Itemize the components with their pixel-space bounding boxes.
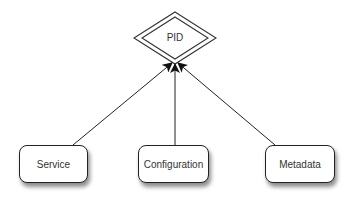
node-metadata-label: Metadata xyxy=(279,159,321,170)
node-service-label: Service xyxy=(37,159,70,170)
pid-label: PID xyxy=(155,32,195,43)
node-configuration[interactable]: Configuration xyxy=(138,145,209,183)
node-metadata[interactable]: Metadata xyxy=(265,145,335,183)
node-service[interactable]: Service xyxy=(19,145,88,183)
node-configuration-label: Configuration xyxy=(144,159,203,170)
edge-service-to-pid xyxy=(73,63,172,145)
edge-metadata-to-pid xyxy=(178,63,275,145)
diagram-canvas: PID Service Configuration Metadata xyxy=(0,0,350,205)
